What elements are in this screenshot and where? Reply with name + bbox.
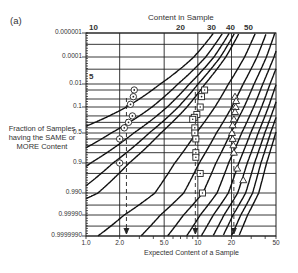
y-tick-label: 0.01: [22, 79, 82, 86]
x-tick-label: 2.0: [110, 239, 130, 246]
y-tick-label: 0.000001: [22, 28, 82, 35]
curve-label-top: 40: [226, 23, 235, 32]
x-tick-label: 10: [188, 239, 208, 246]
x-tick-label: 50: [266, 239, 286, 246]
y-tick-label: 0.1: [22, 102, 82, 109]
y-tick-label: 0.9999990: [22, 231, 82, 238]
panel-label: (a): [10, 15, 22, 26]
y-tick-label: 0.5: [22, 128, 82, 135]
curve-label-top: 20: [176, 23, 185, 32]
curve-label-top: 10: [89, 23, 98, 32]
curve-label-inner: 5: [89, 72, 93, 81]
x-tick-label: 20: [221, 239, 241, 246]
curve-label-top: 30: [207, 23, 216, 32]
x-axis-label: Expected Content of a Sample: [144, 249, 239, 256]
y-tick-label: 0.99990: [22, 210, 82, 217]
top-axis-title: Content in Sample: [148, 13, 214, 22]
grid-lines: [86, 33, 276, 236]
axis-ticks: [82, 33, 276, 239]
x-tick-label: 1.0: [76, 239, 96, 246]
y-tick-label: 0.0001: [22, 52, 82, 59]
y-tick-label: 0.9: [22, 158, 82, 165]
curve-label-top: 50: [244, 23, 253, 32]
x-tick-label: 5.0: [154, 239, 174, 246]
plot-frame: [86, 33, 276, 236]
y-tick-label: 0.990: [22, 188, 82, 195]
